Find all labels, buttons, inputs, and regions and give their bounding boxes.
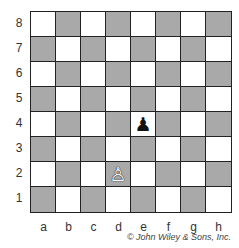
square-f4 bbox=[156, 112, 181, 137]
rank-label-4: 4 bbox=[13, 116, 25, 130]
square-a1 bbox=[31, 187, 56, 212]
square-d8 bbox=[106, 12, 131, 37]
square-d5 bbox=[106, 87, 131, 112]
square-h5 bbox=[206, 87, 231, 112]
square-f7 bbox=[156, 37, 181, 62]
square-c2 bbox=[81, 162, 106, 187]
square-b3 bbox=[56, 137, 81, 162]
square-a4 bbox=[31, 112, 56, 137]
rank-label-7: 7 bbox=[13, 41, 25, 55]
file-label-c: c bbox=[81, 220, 106, 234]
square-d2: ♙ bbox=[106, 162, 131, 187]
square-b1 bbox=[56, 187, 81, 212]
square-a5 bbox=[31, 87, 56, 112]
square-a8 bbox=[31, 12, 56, 37]
square-e5 bbox=[131, 87, 156, 112]
square-d7 bbox=[106, 37, 131, 62]
square-f5 bbox=[156, 87, 181, 112]
square-g3 bbox=[181, 137, 206, 162]
file-label-b: b bbox=[56, 220, 81, 234]
square-f1 bbox=[156, 187, 181, 212]
square-h6 bbox=[206, 62, 231, 87]
square-b5 bbox=[56, 87, 81, 112]
square-b2 bbox=[56, 162, 81, 187]
square-e1 bbox=[131, 187, 156, 212]
square-g6 bbox=[181, 62, 206, 87]
square-c6 bbox=[81, 62, 106, 87]
rank-label-5: 5 bbox=[13, 91, 25, 105]
square-h8 bbox=[206, 12, 231, 37]
square-e6 bbox=[131, 62, 156, 87]
square-d4 bbox=[106, 112, 131, 137]
square-e3 bbox=[131, 137, 156, 162]
white-pawn-icon: ♙ bbox=[109, 165, 126, 184]
square-e7 bbox=[131, 37, 156, 62]
rank-label-1: 1 bbox=[13, 191, 25, 205]
file-label-a: a bbox=[31, 220, 56, 234]
square-b6 bbox=[56, 62, 81, 87]
square-c8 bbox=[81, 12, 106, 37]
square-g7 bbox=[181, 37, 206, 62]
square-h7 bbox=[206, 37, 231, 62]
square-a3 bbox=[31, 137, 56, 162]
square-d6 bbox=[106, 62, 131, 87]
square-h3 bbox=[206, 137, 231, 162]
square-g2 bbox=[181, 162, 206, 187]
rank-label-3: 3 bbox=[13, 141, 25, 155]
square-a6 bbox=[31, 62, 56, 87]
square-b4 bbox=[56, 112, 81, 137]
square-f2 bbox=[156, 162, 181, 187]
square-b7 bbox=[56, 37, 81, 62]
square-c1 bbox=[81, 187, 106, 212]
square-g5 bbox=[181, 87, 206, 112]
chessboard: ♟♙ bbox=[30, 11, 232, 213]
square-e8 bbox=[131, 12, 156, 37]
rank-label-8: 8 bbox=[13, 16, 25, 30]
square-c3 bbox=[81, 137, 106, 162]
square-g1 bbox=[181, 187, 206, 212]
square-h2 bbox=[206, 162, 231, 187]
black-pawn-icon: ♟ bbox=[134, 115, 151, 134]
square-f6 bbox=[156, 62, 181, 87]
square-a7 bbox=[31, 37, 56, 62]
square-g8 bbox=[181, 12, 206, 37]
square-c4 bbox=[81, 112, 106, 137]
square-e4: ♟ bbox=[131, 112, 156, 137]
square-c5 bbox=[81, 87, 106, 112]
square-f8 bbox=[156, 12, 181, 37]
square-h4 bbox=[206, 112, 231, 137]
square-a2 bbox=[31, 162, 56, 187]
square-g4 bbox=[181, 112, 206, 137]
square-b8 bbox=[56, 12, 81, 37]
rank-label-6: 6 bbox=[13, 66, 25, 80]
square-h1 bbox=[206, 187, 231, 212]
rank-label-2: 2 bbox=[13, 166, 25, 180]
square-f3 bbox=[156, 137, 181, 162]
square-d1 bbox=[106, 187, 131, 212]
copyright-notice: © John Wiley & Sons, Inc. bbox=[127, 232, 231, 242]
square-c7 bbox=[81, 37, 106, 62]
square-e2 bbox=[131, 162, 156, 187]
square-d3 bbox=[106, 137, 131, 162]
